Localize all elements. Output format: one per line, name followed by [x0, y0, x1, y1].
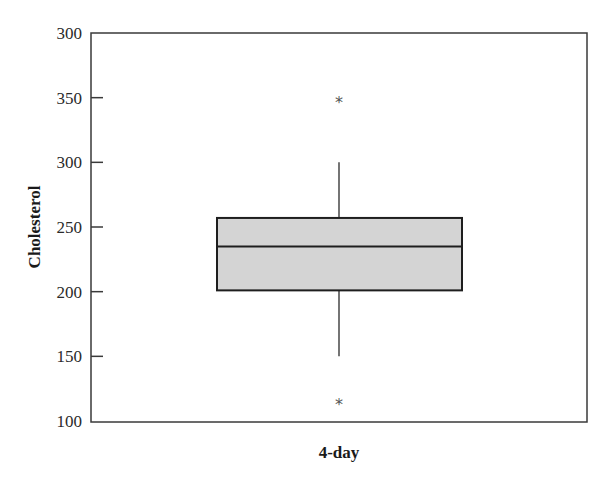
x-axis-title: 4-day: [319, 443, 360, 462]
iqr-box: [217, 218, 462, 290]
y-tick-label: 300: [57, 153, 83, 172]
y-tick-label: 100: [57, 412, 83, 431]
box-plot-chart: 300350300250200150100 ** Cholesterol 4-d…: [0, 0, 609, 494]
y-tick-label: 200: [57, 283, 83, 302]
outlier-marker: *: [335, 395, 343, 414]
outlier-marker: *: [335, 93, 343, 112]
y-axis: 300350300250200150100: [57, 24, 104, 431]
box-series: **: [217, 93, 462, 413]
y-tick-label: 350: [57, 89, 83, 108]
y-tick-label: 300: [57, 24, 83, 43]
y-tick-label: 250: [57, 218, 83, 237]
y-tick-label: 150: [57, 347, 83, 366]
y-axis-title: Cholesterol: [25, 185, 44, 268]
